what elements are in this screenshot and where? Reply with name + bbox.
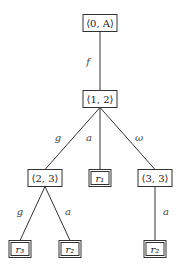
- edge-label: a: [65, 206, 71, 217]
- edge-n2-n5: [20, 187, 45, 241]
- edge-label: f: [85, 56, 92, 67]
- edge-labels-layer: fgaωgaa: [17, 56, 169, 217]
- edge-label: g: [17, 206, 23, 217]
- edge-label: ω: [135, 132, 143, 143]
- leaf-node: r₂: [59, 241, 81, 258]
- node-label: ⟨2, 3⟩: [32, 173, 59, 184]
- edge-label: a: [163, 206, 169, 217]
- node-label: r₂: [66, 244, 75, 255]
- edge-label: a: [86, 132, 92, 143]
- node-label: r₂: [151, 244, 160, 255]
- node-label: r₃: [16, 244, 25, 255]
- tree-node: ⟨3, 3⟩: [138, 170, 172, 187]
- leaf-node: r₃: [9, 241, 31, 258]
- node-label: ⟨0, A⟩: [86, 18, 114, 29]
- edge-n1-n4: [100, 108, 155, 170]
- tree-node: ⟨2, 3⟩: [28, 170, 62, 187]
- leaf-node: r₂: [144, 241, 166, 258]
- node-label: ⟨3, 3⟩: [142, 173, 169, 184]
- tree-node: ⟨0, A⟩: [83, 15, 117, 32]
- edge-label: g: [55, 132, 61, 143]
- leaf-node: r₁: [89, 170, 111, 187]
- node-label: r₁: [96, 173, 105, 184]
- tree-diagram: fgaωgaa ⟨0, A⟩⟨1, 2⟩⟨2, 3⟩r₁⟨3, 3⟩r₃r₂r₂: [0, 0, 181, 273]
- tree-node: ⟨1, 2⟩: [83, 91, 117, 108]
- node-label: ⟨1, 2⟩: [87, 94, 114, 105]
